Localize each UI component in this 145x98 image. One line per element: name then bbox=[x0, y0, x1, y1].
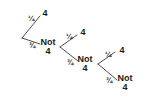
outcome-text-four: 4 bbox=[78, 64, 93, 73]
outcome-node-l1-up: 4 bbox=[42, 9, 47, 18]
branch-probability-b3-down: ¾ bbox=[106, 77, 112, 85]
branch-probability-b3-up: ¼ bbox=[105, 51, 111, 59]
outcome-node-l2-down: Not 4 bbox=[78, 55, 93, 74]
branch-probability-b2-up: ¼ bbox=[66, 33, 72, 41]
outcome-text-success: 4 bbox=[42, 9, 47, 18]
outcome-node-l3-down: Not 4 bbox=[118, 74, 133, 93]
outcome-node-l2-up: 4 bbox=[80, 28, 85, 37]
outcome-text-success: 4 bbox=[119, 46, 124, 55]
branch-probability-b2-down: ¾ bbox=[67, 59, 73, 67]
outcome-node-l1-down: Not 4 bbox=[41, 38, 56, 57]
outcome-text-four: 4 bbox=[118, 83, 133, 92]
outcome-node-l3-up: 4 bbox=[119, 46, 124, 55]
branch-probability-b1-down: ¾ bbox=[29, 42, 35, 50]
branch-probability-b1-up: ¼ bbox=[28, 15, 34, 23]
outcome-text-success: 4 bbox=[80, 28, 85, 37]
probability-tree-diagram: ¼ ¾ ¼ ¾ ¼ ¾ 4 Not 4 4 Not 4 4 Not 4 bbox=[0, 0, 145, 98]
outcome-text-four: 4 bbox=[41, 47, 56, 56]
